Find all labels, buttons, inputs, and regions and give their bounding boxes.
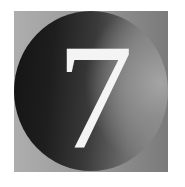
- number-badge: 7: [14, 11, 168, 172]
- badge-numeral: 7: [16, 15, 168, 172]
